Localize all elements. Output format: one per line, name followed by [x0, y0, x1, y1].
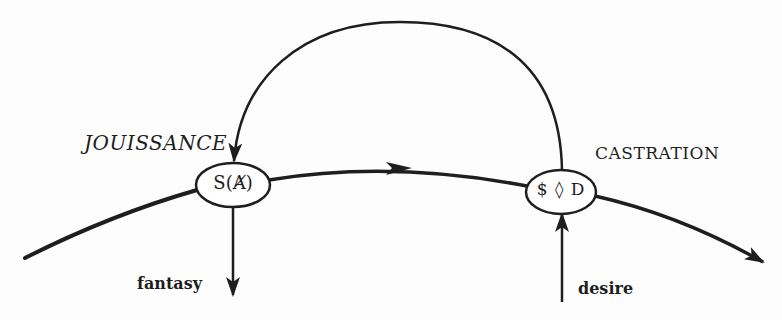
- upper-arc: [234, 22, 562, 170]
- fantasy-label: fantasy: [137, 274, 202, 293]
- main-curve-middle: [269, 171, 527, 186]
- castration-label: CASTRATION: [595, 143, 719, 163]
- node-drive-label: $ ◊ D: [526, 179, 596, 199]
- main-curve-left: [25, 190, 197, 258]
- jouissance-label: JOUISSANCE: [84, 131, 227, 155]
- node-barred-other-label: S(Ⱥ): [196, 172, 270, 193]
- diagram-canvas: S(Ⱥ) $ ◊ D JOUISSANCE CASTRATION fantasy…: [0, 0, 782, 320]
- desire-label: desire: [578, 279, 633, 298]
- main-curve-right: [595, 196, 763, 262]
